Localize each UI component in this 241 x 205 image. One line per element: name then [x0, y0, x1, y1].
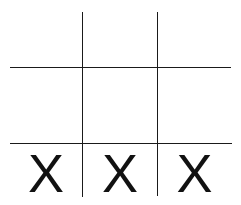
cell-2-2[interactable]: X [158, 146, 231, 200]
cell-1-1[interactable] [83, 68, 157, 143]
cell-0-1[interactable] [83, 12, 157, 67]
cell-2-0[interactable]: X [10, 146, 82, 200]
cell-1-2[interactable] [158, 68, 231, 143]
cell-1-0[interactable] [10, 68, 82, 143]
cell-0-2[interactable] [158, 12, 231, 67]
cell-0-0[interactable] [10, 12, 82, 67]
cell-2-1[interactable]: X [83, 146, 157, 200]
